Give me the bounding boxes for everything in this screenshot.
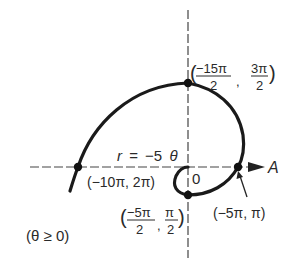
- svg-text:2: 2: [256, 78, 263, 93]
- svg-text:): ): [178, 206, 185, 228]
- point-left-label: (−10π, 2π): [87, 174, 155, 190]
- svg-text:−15π: −15π: [196, 61, 227, 76]
- equation-label: r = −5 θ: [117, 147, 178, 164]
- svg-text:,: ,: [236, 74, 240, 89]
- svg-text:2: 2: [210, 78, 217, 93]
- condition-label: (θ ≥ 0): [26, 227, 69, 244]
- point-left: [74, 163, 82, 171]
- svg-text:,: ,: [157, 218, 161, 233]
- polar-spiral-diagram: A 0 r = −5 θ (−10π, 2π) (−5π, π) ( −15π …: [0, 0, 296, 270]
- point-bottom-label: ( −5π 2 , π 2 ): [120, 205, 185, 237]
- pointer-arrow-icon: [237, 171, 244, 179]
- pointer-line: [240, 176, 247, 197]
- point-bottom: [184, 191, 192, 199]
- svg-text:2: 2: [167, 222, 174, 237]
- polar-axis-label: A: [267, 159, 279, 176]
- point-right-label: (−5π, π): [213, 205, 265, 221]
- svg-text:3π: 3π: [251, 61, 267, 76]
- point-right: [234, 163, 242, 171]
- svg-text:−5π: −5π: [127, 205, 151, 220]
- svg-text:): ): [269, 62, 276, 84]
- polar-axis-arrow-icon: [248, 162, 265, 172]
- origin-label: 0: [192, 170, 200, 187]
- svg-text:2: 2: [136, 222, 143, 237]
- svg-text:π: π: [165, 205, 174, 220]
- svg-text:(: (: [120, 206, 127, 228]
